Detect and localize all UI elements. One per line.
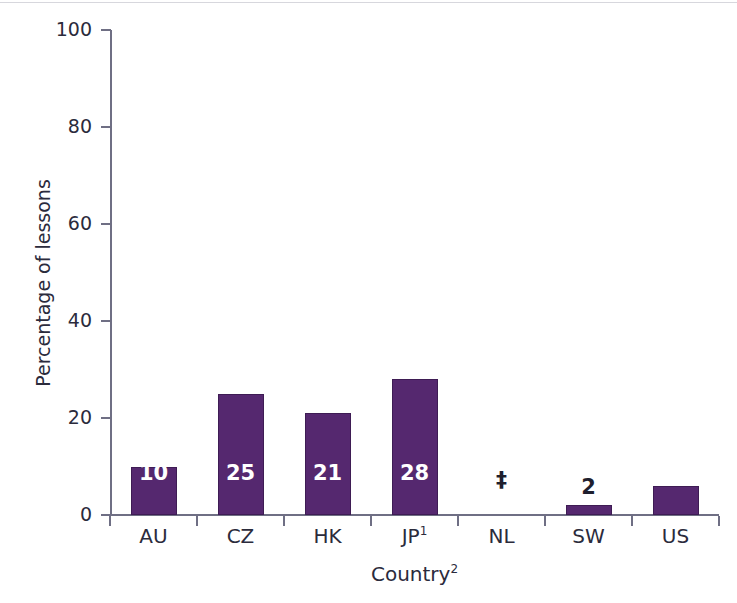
y-axis-line xyxy=(110,30,112,516)
bar-value-label-sw: 2 xyxy=(545,477,632,498)
x-category-label-hk: HK xyxy=(284,524,371,548)
bar-cz xyxy=(218,394,264,515)
x-axis-title: Country2 xyxy=(110,562,719,586)
y-axis-tick-label: 40 xyxy=(30,311,92,330)
x-category-label-text: JP xyxy=(402,524,420,548)
x-category-label-us: US xyxy=(632,524,719,548)
y-axis-tick-label: 60 xyxy=(30,214,92,233)
x-axis-title-text: Country xyxy=(371,562,450,586)
suppression-mark-nl: ‡ xyxy=(458,469,545,491)
y-axis-tick xyxy=(101,29,111,31)
bar-value-label-jp: 28 xyxy=(371,463,458,484)
bar-value-label-hk: 21 xyxy=(284,463,371,484)
x-category-label-cz: CZ xyxy=(197,524,284,548)
x-category-label-jp: JP1 xyxy=(371,524,458,548)
x-axis-title-superscript: 2 xyxy=(450,562,458,576)
x-category-label-text: HK xyxy=(313,524,341,548)
x-category-label-text: AU xyxy=(139,524,167,548)
y-axis-title: Percentage of lessons xyxy=(32,163,54,403)
bar-value-label-us: 6 xyxy=(632,463,719,484)
x-category-label-text: US xyxy=(662,524,689,548)
bar-value-label-cz: 25 xyxy=(197,463,284,484)
bar-jp xyxy=(392,379,438,515)
x-category-label-sw: SW xyxy=(545,524,632,548)
x-category-label-nl: NL xyxy=(458,524,545,548)
x-category-label-text: CZ xyxy=(227,524,255,548)
y-axis-tick-label-text: 80 xyxy=(40,117,92,136)
y-axis-tick xyxy=(101,126,111,128)
bar-sw xyxy=(566,505,612,515)
y-axis-tick-label-text: 100 xyxy=(40,20,92,39)
y-axis-tick-label-text: 20 xyxy=(40,408,92,427)
bar-chart: Percentage of lessons Country2 020406080… xyxy=(0,0,737,603)
y-axis-tick-label: 0 xyxy=(30,505,92,524)
x-category-label-au: AU xyxy=(110,524,197,548)
y-axis-tick-label-text: 0 xyxy=(40,505,92,524)
y-axis-tick-label: 80 xyxy=(30,117,92,136)
y-axis-tick-label: 100 xyxy=(30,20,92,39)
y-axis-tick xyxy=(101,320,111,322)
bar-value-label-au: 10 xyxy=(110,463,197,484)
x-category-label-text: SW xyxy=(572,524,604,548)
y-axis-tick xyxy=(101,417,111,419)
y-axis-tick-label-text: 60 xyxy=(40,214,92,233)
y-axis-tick xyxy=(101,223,111,225)
bar-us xyxy=(653,486,699,515)
y-axis-tick-label-text: 40 xyxy=(40,311,92,330)
x-category-label-text: NL xyxy=(488,524,514,548)
y-axis-tick-label: 20 xyxy=(30,408,92,427)
x-category-label-superscript: 1 xyxy=(420,524,428,538)
